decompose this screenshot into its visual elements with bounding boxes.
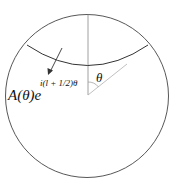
- exponent-label: i(l + 1/2)θ: [40, 78, 78, 88]
- diagram-canvas: A(θ)e i(l + 1/2)θ θ: [0, 0, 172, 186]
- angle-ray: [88, 64, 127, 95]
- theta-label: θ: [96, 70, 103, 85]
- arrow-head-icon: [48, 68, 54, 75]
- wavefront-curve: [27, 45, 148, 66]
- arrow-shaft: [50, 48, 62, 72]
- amplitude-label: A(θ)e: [7, 87, 42, 104]
